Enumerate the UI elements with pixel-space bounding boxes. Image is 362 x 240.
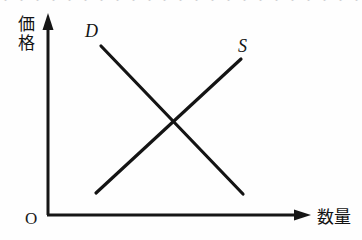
- supply-demand-chart: [0, 0, 362, 240]
- supply-curve-label: S: [238, 36, 247, 57]
- origin-label: O: [25, 209, 37, 229]
- right-arrow-icon: [294, 210, 311, 221]
- y-axis-label-char-2: 格: [14, 35, 38, 54]
- x-axis-label-quantity: 数量: [317, 203, 351, 228]
- y-axis-label-price: 価格: [14, 16, 38, 54]
- supply-curve: [96, 59, 241, 193]
- figure-root: ・ ・ ・ ・ ・ ・ ・ ・ ・ ・ ・ ・ ・ ・ ・ ・ ・ ・ ・ ・ …: [0, 0, 362, 240]
- demand-curve-label: D: [85, 21, 98, 42]
- up-arrow-icon: [43, 13, 54, 30]
- curves-group: [96, 46, 243, 194]
- demand-curve: [101, 46, 243, 194]
